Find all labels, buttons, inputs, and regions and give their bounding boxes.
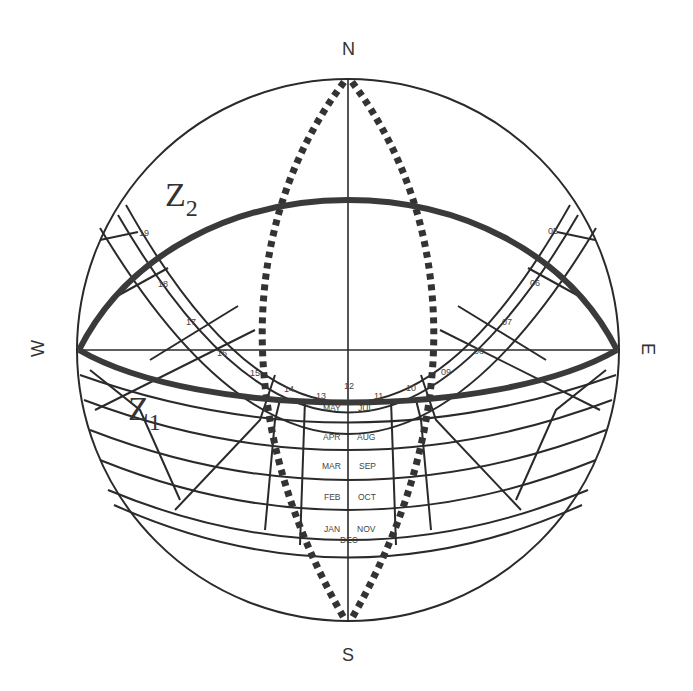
svg-text:11: 11 (374, 391, 383, 401)
svg-text:08: 08 (474, 346, 484, 356)
svg-text:16: 16 (217, 348, 227, 358)
svg-text:19: 19 (139, 228, 149, 238)
svg-text:12: 12 (344, 381, 354, 391)
svg-text:14: 14 (284, 384, 294, 394)
west-label: W (28, 340, 48, 357)
z1-label: Z1 (128, 390, 161, 435)
svg-text:15: 15 (250, 368, 260, 378)
svg-text:AUG: AUG (357, 432, 375, 442)
svg-text:09: 09 (441, 367, 451, 377)
svg-text:05: 05 (548, 226, 558, 236)
sun-path-diagram: Z2 Z1 05 06 07 08 09 10 11 12 13 14 15 1… (0, 0, 693, 691)
east-label: E (638, 343, 658, 355)
svg-text:18: 18 (158, 279, 168, 289)
svg-text:DEC: DEC (340, 535, 358, 545)
svg-text:07: 07 (502, 317, 512, 327)
svg-text:NOV: NOV (357, 524, 376, 534)
z2-label: Z2 (165, 176, 198, 221)
svg-text:17: 17 (186, 317, 196, 327)
svg-text:13: 13 (316, 391, 326, 401)
svg-text:OCT: OCT (358, 492, 376, 502)
svg-text:SEP: SEP (359, 461, 376, 471)
south-label: S (342, 645, 354, 665)
month-labels: MAY APR MAR FEB JAN JUL AUG SEP OCT NOV … (322, 403, 376, 545)
svg-text:APR: APR (323, 432, 340, 442)
svg-text:FEB: FEB (324, 492, 341, 502)
svg-text:JUL: JUL (358, 403, 373, 413)
svg-text:JAN: JAN (324, 524, 340, 534)
svg-text:MAR: MAR (322, 461, 341, 471)
north-label: N (342, 39, 355, 59)
svg-text:10: 10 (406, 383, 416, 393)
svg-text:MAY: MAY (323, 403, 341, 413)
svg-text:06: 06 (530, 278, 540, 288)
